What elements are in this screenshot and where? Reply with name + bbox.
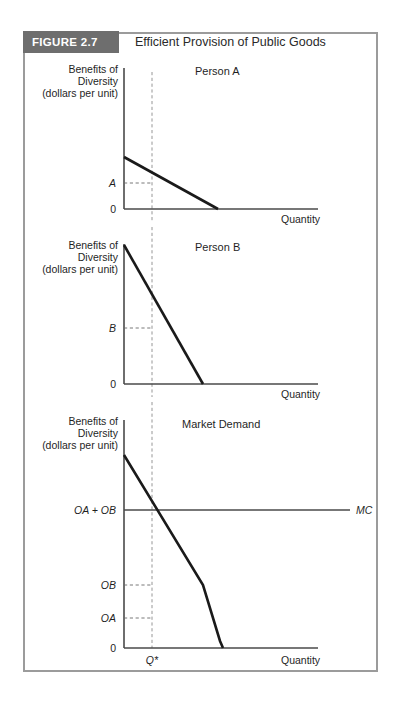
figure-container: FIGURE 2.7 Efficient Provision of Public… bbox=[0, 0, 396, 704]
panel-b-y-axis-label-line2: Diversity bbox=[78, 251, 119, 263]
panel-b-y-axis-label-line1: Benefits of bbox=[68, 239, 118, 251]
panel-b-price-marker-label: B bbox=[109, 322, 116, 334]
panel-a-title: Person A bbox=[195, 65, 240, 77]
panel-a-price-marker-label: A bbox=[108, 177, 116, 189]
panel-m-demand-curve bbox=[124, 455, 223, 648]
panel-b-title: Person B bbox=[195, 241, 240, 253]
panel-person-b: Benefits of Diversity (dollars per unit)… bbox=[42, 227, 321, 400]
panel-m-y-axis-label-line3: (dollars per unit) bbox=[42, 439, 118, 451]
panel-m-origin-label: 0 bbox=[110, 642, 116, 654]
panel-m-price-marker-oa-label: OA bbox=[101, 612, 116, 624]
panel-m-title: Market Demand bbox=[182, 418, 260, 430]
panel-a-y-axis-label-line2: Diversity bbox=[78, 75, 119, 87]
panel-m-y-axis-label-line1: Benefits of bbox=[68, 415, 118, 427]
panel-m-mc-label: MC bbox=[356, 504, 373, 516]
figure-plot-area: Benefits of Diversity (dollars per unit)… bbox=[23, 32, 378, 672]
panel-person-a: Benefits of Diversity (dollars per unit)… bbox=[42, 63, 321, 225]
panel-a-origin-label: 0 bbox=[110, 203, 116, 215]
panel-m-price-marker-sum-label: OA + OB bbox=[74, 504, 116, 516]
panel-a-x-axis-label: Quantity bbox=[281, 213, 321, 225]
panel-market-demand: Benefits of Diversity (dollars per unit)… bbox=[42, 402, 373, 666]
panel-m-y-axis-label-line2: Diversity bbox=[78, 427, 119, 439]
panel-a-y-axis-label-line3: (dollars per unit) bbox=[42, 87, 118, 99]
panel-b-y-axis-label-line3: (dollars per unit) bbox=[42, 263, 118, 275]
panel-b-demand-curve bbox=[124, 245, 203, 384]
panel-a-y-axis-label-line1: Benefits of bbox=[68, 63, 118, 75]
panel-m-quantity-marker-label: Q* bbox=[146, 654, 159, 666]
panel-m-price-marker-ob-label: OB bbox=[101, 579, 116, 591]
panel-b-x-axis-label: Quantity bbox=[281, 388, 321, 400]
panel-b-origin-label: 0 bbox=[110, 378, 116, 390]
panel-m-x-axis-label: Quantity bbox=[281, 654, 321, 666]
